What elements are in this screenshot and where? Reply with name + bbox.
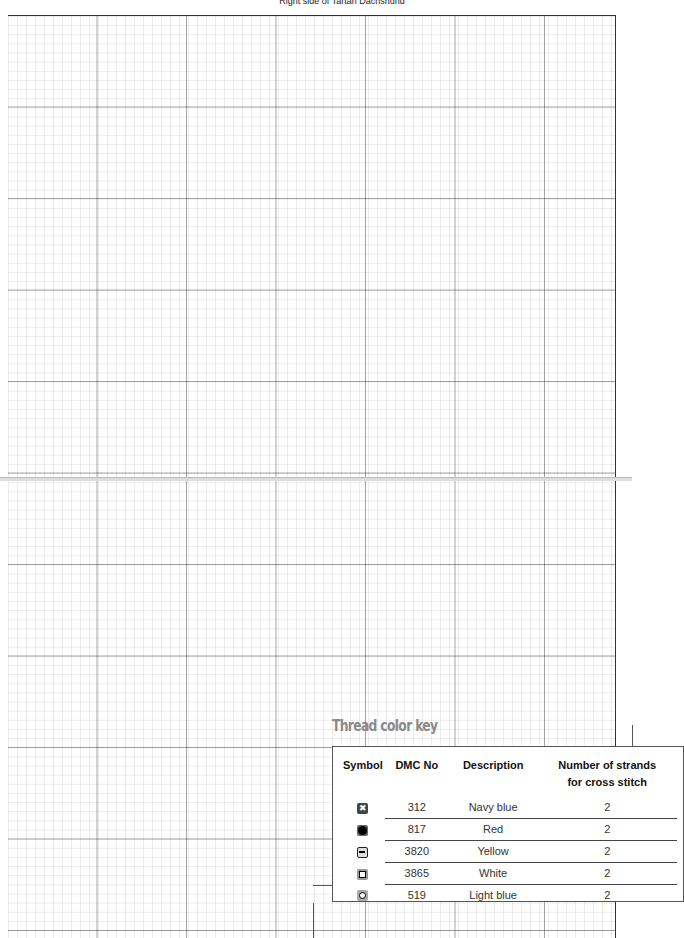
thread-description: Yellow (449, 841, 537, 863)
thread-dmc: 312 (385, 797, 449, 819)
thread-dmc: 3820 (385, 841, 449, 863)
dash-icon (357, 847, 368, 858)
thread-row: 817 Red 2 (341, 819, 677, 841)
thread-description: White (449, 863, 537, 885)
chart-caption: Right side of Tartan Dachshund (0, 0, 684, 6)
thread-key-panel: Symbol DMC No Description Number of stra… (332, 746, 684, 902)
thread-row: 3820 Yellow 2 (341, 841, 677, 863)
thread-strands: 2 (537, 885, 677, 907)
header-strands-line1: Number of strands (539, 757, 675, 774)
thread-description: Red (449, 819, 537, 841)
page-fold-line (0, 477, 632, 481)
ring-icon (357, 890, 368, 901)
thread-strands: 2 (537, 819, 677, 841)
header-strands: Number of strands for cross stitch (537, 755, 677, 797)
header-description: Description (449, 755, 537, 797)
cross-icon (357, 803, 368, 814)
thread-row: 312 Navy blue 2 (341, 797, 677, 819)
header-symbol: Symbol (341, 755, 385, 797)
thread-strands: 2 (537, 863, 677, 885)
key-divider (632, 725, 633, 747)
key-divider (313, 885, 333, 886)
header-strands-line2: for cross stitch (539, 774, 675, 791)
thread-row: 3865 White 2 (341, 863, 677, 885)
key-divider (313, 903, 314, 938)
header-dmc: DMC No (385, 755, 449, 797)
thread-strands: 2 (537, 841, 677, 863)
thread-key-table: Symbol DMC No Description Number of stra… (341, 755, 677, 906)
thread-key-title: Thread color key (332, 717, 437, 735)
thread-description: Light blue (449, 885, 537, 907)
square-icon (357, 869, 368, 880)
thread-dmc: 817 (385, 819, 449, 841)
thread-dmc: 3865 (385, 863, 449, 885)
filled-circle-icon (357, 825, 368, 836)
thread-row: 519 Light blue 2 (341, 885, 677, 907)
thread-strands: 2 (537, 797, 677, 819)
thread-dmc: 519 (385, 885, 449, 907)
thread-key-header-row: Symbol DMC No Description Number of stra… (341, 755, 677, 797)
thread-description: Navy blue (449, 797, 537, 819)
